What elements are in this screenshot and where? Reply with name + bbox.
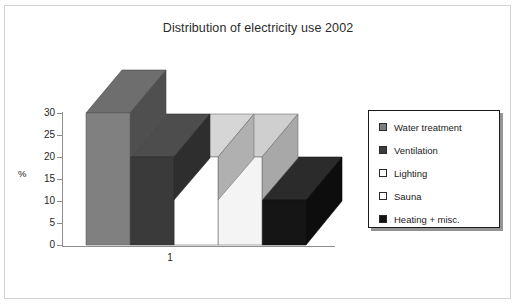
y-tick-label-10: 10: [31, 196, 55, 206]
y-tick-label-5: 5: [31, 218, 55, 228]
y-tick-label-20: 20: [31, 152, 55, 162]
y-tick-label-30: 30: [31, 108, 55, 118]
legend-label-sauna: Sauna: [394, 191, 421, 202]
y-axis-title: %: [18, 168, 26, 179]
y-tick-label-15: 15: [31, 174, 55, 184]
y-tick-label-0: 0: [31, 240, 55, 250]
x-tick-label: 1: [150, 252, 190, 263]
y-tick-mark-20: [57, 157, 62, 158]
legend-swatch-icon-heating-misc: [379, 215, 387, 223]
page-title: Distribution of electricity use 2002: [0, 21, 516, 35]
legend-swatch-icon-water-treatment: [379, 123, 387, 131]
legend-item-ventilation[interactable]: Ventilation: [379, 144, 438, 156]
legend-item-lighting[interactable]: Lighting: [379, 167, 427, 179]
legend: Water treatment Ventilation Lighting Sau…: [368, 110, 500, 228]
x-axis-line: [62, 246, 335, 247]
legend-item-sauna[interactable]: Sauna: [379, 190, 421, 202]
legend-swatch-icon-lighting: [379, 169, 387, 177]
y-axis-line: [62, 112, 63, 246]
y-tick-mark-25: [57, 135, 62, 136]
legend-label-lighting: Lighting: [394, 168, 427, 179]
legend-item-water-treatment[interactable]: Water treatment: [379, 121, 462, 133]
y-tick-mark-10: [57, 201, 62, 202]
y-tick-label-25: 25: [31, 130, 55, 140]
y-tick-mark-30: [57, 113, 62, 114]
legend-item-heating-misc[interactable]: Heating + misc.: [379, 213, 460, 225]
legend-label-ventilation: Ventilation: [394, 145, 438, 156]
y-tick-mark-15: [57, 179, 62, 180]
legend-label-water-treatment: Water treatment: [394, 122, 462, 133]
legend-swatch-icon-sauna: [379, 192, 387, 200]
legend-swatch-icon-ventilation: [379, 146, 387, 154]
y-tick-mark-5: [57, 223, 62, 224]
legend-label-heating-misc: Heating + misc.: [394, 214, 460, 225]
screenshot-root: Distribution of electricity use 2002 30 …: [0, 0, 516, 305]
